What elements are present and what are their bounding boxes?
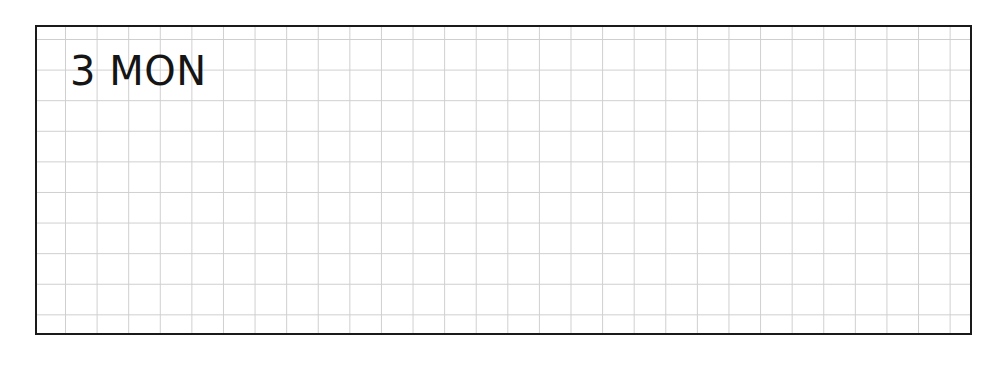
day-label: 3 MON <box>70 51 207 91</box>
planner-day-grid: 3 MON <box>35 25 972 335</box>
